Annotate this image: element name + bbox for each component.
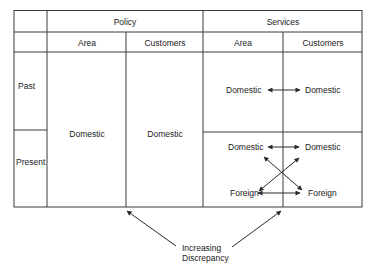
policy-customers-value: Domestic bbox=[147, 129, 182, 139]
row-label-present: Present bbox=[16, 157, 45, 167]
services-present-area-foreign: Foreign bbox=[230, 188, 259, 198]
services-past-customers-value: Domestic bbox=[305, 85, 340, 95]
services-present-customers-foreign: Foreign bbox=[308, 188, 337, 198]
row-label-past: Past bbox=[18, 81, 35, 91]
services-present-area-domestic: Domestic bbox=[228, 142, 263, 152]
services-present-customers-domestic: Domestic bbox=[305, 142, 340, 152]
group-header-services: Services bbox=[267, 17, 300, 27]
annotation-line-1: Increasing bbox=[182, 243, 221, 253]
services-past-area-value: Domestic bbox=[226, 85, 261, 95]
policy-area-value: Domestic bbox=[69, 129, 104, 139]
column-header-policy-customers: Customers bbox=[144, 38, 185, 48]
annotation-line-2: Discrepancy bbox=[182, 253, 229, 263]
discrepancy-arrow-policy bbox=[127, 211, 176, 246]
cross-arrow-foreign-to-domestic bbox=[259, 158, 299, 191]
column-header-services-customers: Customers bbox=[302, 38, 343, 48]
group-header-policy: Policy bbox=[114, 17, 137, 27]
discrepancy-arrow-services bbox=[232, 211, 281, 247]
column-header-services-area: Area bbox=[234, 38, 252, 48]
column-header-policy-area: Area bbox=[78, 38, 96, 48]
